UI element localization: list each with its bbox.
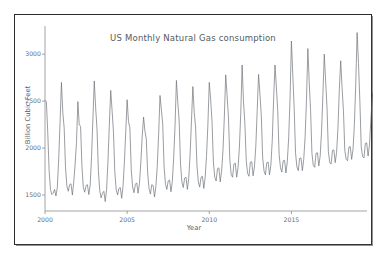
x-axis-title: Year	[15, 224, 373, 232]
y-tick-marks	[42, 54, 45, 195]
axis-lines	[45, 26, 367, 211]
chart-plot-area: 1500200025003000 2000200520102015 Billio…	[15, 15, 373, 246]
screenshot-border: US Monthly Natural Gas consumption 15002…	[14, 14, 372, 245]
series-line-gas-consumption	[45, 33, 373, 202]
line-chart-svg	[15, 15, 373, 246]
x-tick-label: 2015	[276, 216, 306, 223]
x-tick-label: 2005	[112, 216, 142, 223]
x-tick-marks	[45, 211, 291, 214]
x-tick-label: 2010	[194, 216, 224, 223]
y-axis-title: Billion Cubic Feet	[24, 80, 32, 150]
y-tick-label: 3000	[13, 50, 41, 57]
x-tick-label: 2000	[30, 216, 60, 223]
y-tick-label: 1500	[13, 191, 41, 198]
